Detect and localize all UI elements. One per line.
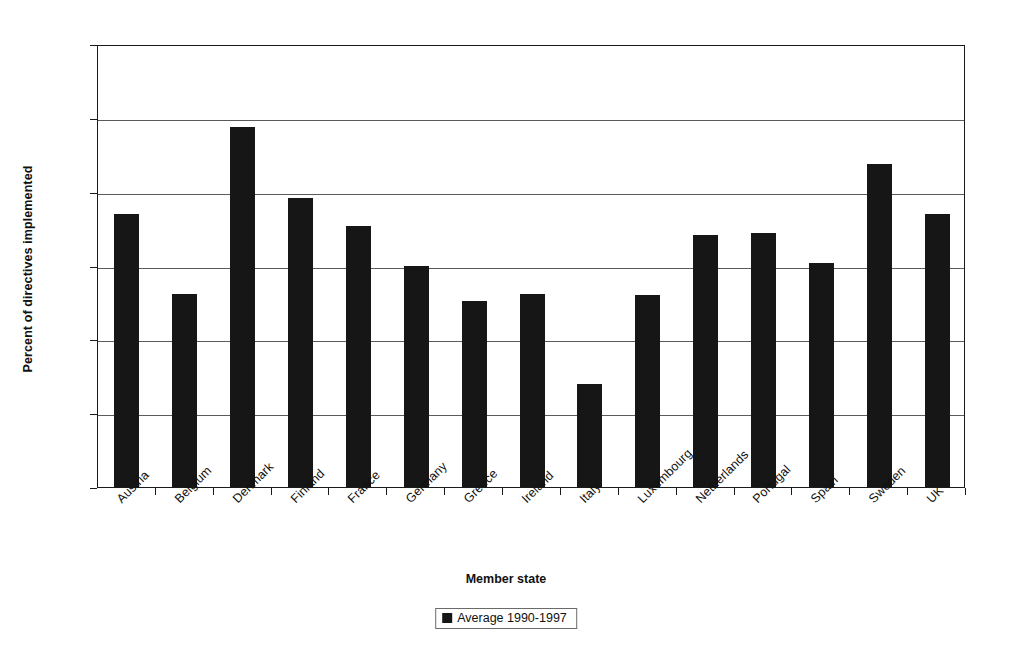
- bar: [809, 263, 834, 487]
- x-axis-tick-mark: [271, 488, 272, 495]
- bar: [462, 301, 487, 487]
- gridline: [98, 120, 964, 121]
- bar: [404, 266, 429, 488]
- bar: [751, 233, 776, 487]
- bar: [288, 198, 313, 487]
- x-axis-title: Member state: [0, 572, 1012, 586]
- x-axis-tick-mark: [155, 488, 156, 495]
- legend-label: Average 1990-1997: [457, 611, 567, 625]
- legend-swatch-icon: [442, 613, 452, 623]
- y-axis-tick-mark: [90, 45, 97, 46]
- y-axis-tick-mark: [90, 488, 97, 489]
- gridline: [98, 194, 964, 195]
- x-axis-tick-mark: [618, 488, 619, 495]
- x-axis-tick-mark: [734, 488, 735, 495]
- x-axis-tick-mark: [213, 488, 214, 495]
- bar: [230, 127, 255, 487]
- bar: [520, 294, 545, 487]
- x-axis-tick-mark: [444, 488, 445, 495]
- bar: [693, 235, 718, 488]
- bar-chart-figure: Percent of directives implemented 707580…: [0, 0, 1012, 656]
- y-axis-tick-mark: [90, 119, 97, 120]
- x-axis-tick-mark: [502, 488, 503, 495]
- bar: [925, 214, 950, 487]
- x-axis-tick-mark: [560, 488, 561, 495]
- y-axis-tick-mark: [90, 267, 97, 268]
- x-axis-tick-mark: [907, 488, 908, 495]
- bar: [114, 214, 139, 487]
- x-axis-tick-mark: [965, 488, 966, 495]
- bar: [346, 226, 371, 487]
- y-axis-tick-mark: [90, 193, 97, 194]
- plot-area: [97, 45, 965, 488]
- y-axis-tick-mark: [90, 414, 97, 415]
- x-axis-tick-mark: [386, 488, 387, 495]
- bar: [172, 294, 197, 487]
- y-axis-tick-mark: [90, 340, 97, 341]
- bar: [867, 164, 892, 487]
- chart-legend: Average 1990-1997: [435, 608, 577, 629]
- x-axis-tick-mark: [328, 488, 329, 495]
- x-axis-tick-mark: [791, 488, 792, 495]
- bar: [577, 384, 602, 487]
- x-axis-tick-mark: [849, 488, 850, 495]
- x-axis-tick-mark: [676, 488, 677, 495]
- gridline: [98, 268, 964, 269]
- y-axis-title: Percent of directives implemented: [21, 104, 35, 434]
- bar: [635, 295, 660, 487]
